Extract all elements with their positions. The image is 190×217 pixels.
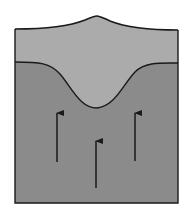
layer-diagram <box>0 0 190 217</box>
